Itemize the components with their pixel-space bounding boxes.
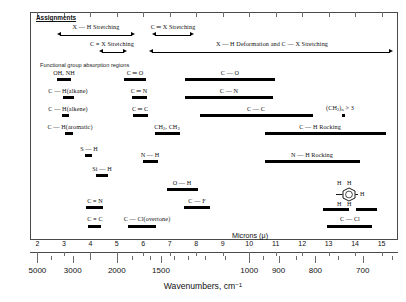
arrow-head-left-cxd — [152, 32, 156, 36]
micron-tick-label-3: 3 — [62, 240, 66, 247]
top-tick-10 — [249, 12, 250, 17]
micron-tick-label-6: 6 — [141, 240, 145, 247]
band-label-ch2-ch3: CH2, CH3 — [154, 124, 180, 131]
band-bar-ch2-ch3 — [155, 132, 180, 135]
band-bar-oh-nh — [57, 78, 71, 81]
micron-tick-7 — [170, 252, 171, 256]
band-label-ch-aromatic: C — H(aromatic) — [47, 124, 92, 130]
wavenumber-tick-1000 — [249, 256, 250, 263]
wavenumber-tick-900 — [279, 256, 280, 263]
wavenumber-caption-exponent: −1 — [235, 281, 242, 288]
arrow-head-right-cxd — [190, 32, 194, 36]
wavenumber-minor-tick-1800 — [132, 256, 133, 260]
wavenumber-minor-tick-2500 — [90, 256, 91, 260]
band-bar-nh-rocking — [265, 160, 360, 163]
wavenumber-tick-label-800: 800 — [309, 266, 322, 275]
ch2ch3-b-sub: 3 — [177, 126, 179, 131]
band-label-ch-alkene: C — H(alkene) — [48, 106, 87, 112]
micron-tick-3 — [64, 252, 65, 256]
micron-tick-14 — [355, 252, 356, 256]
band-bar-sh — [85, 154, 92, 157]
band-bar-ccl — [327, 225, 372, 228]
micron-tick-label-11: 11 — [272, 240, 279, 247]
wavenumber-tick-label-2000: 2000 — [108, 266, 126, 275]
band-bar-cc-single — [200, 114, 313, 117]
top-tick-14 — [355, 12, 356, 17]
wavenumber-caption-text: Wavenumbers, cm — [164, 281, 235, 291]
functional-group-note: Functional group absorption regions — [40, 62, 129, 68]
ir-correlation-chart: Assignments Functional group absorption … — [0, 0, 406, 302]
ch2ch3-b: , CH — [165, 123, 177, 130]
wavenumber-tick-700 — [363, 256, 364, 263]
band-bar-ch-rocking — [265, 132, 386, 135]
wavenumber-minor-tick-1100 — [225, 256, 226, 260]
band-bar-si-h — [96, 174, 108, 177]
top-tick-12 — [302, 12, 303, 17]
band-label-cn-double: C ═ N — [131, 88, 148, 94]
ring-hydrogen-bottom-left: H — [337, 201, 342, 207]
ring-hydrogen-top-left: H — [337, 180, 342, 186]
band-bar-cn-triple — [86, 206, 103, 209]
band-label-co-double: C ═ O — [127, 70, 144, 76]
band-label-ch-alkane: C — H(alkane) — [48, 88, 87, 94]
ring-hydrogen-right: H — [360, 191, 365, 197]
band-bar-aromatic-sub-right — [356, 208, 377, 211]
wavenumber-tick-label-3000: 3000 — [64, 266, 82, 275]
micron-tick-15 — [382, 252, 383, 256]
wavenumber-minor-tick-750 — [338, 256, 339, 260]
top-tick-11 — [276, 12, 277, 17]
band-label-ccl-overtone: C — Cl(overtone) — [124, 216, 171, 222]
micron-axis-line — [30, 252, 398, 253]
wavenumber-minor-tick-850 — [296, 256, 297, 260]
wavenumber-tick-label-1000: 1000 — [240, 266, 258, 275]
wavenumber-minor-tick-1200 — [205, 256, 206, 260]
micron-tick-9 — [223, 252, 224, 256]
ring-hydrogen-top-right: H — [347, 180, 352, 186]
top-tick-4 — [90, 12, 91, 17]
band-label-oh-nh: OH, NH — [53, 70, 75, 76]
band-bar-cn-single — [185, 96, 273, 99]
band-label-cn-single: C — N — [220, 88, 238, 94]
band-bar-ch-alkane — [63, 96, 74, 99]
ch2n-pre: (CH — [326, 104, 337, 111]
band-bar-ch2n — [342, 114, 345, 117]
arrow-head-left-xh — [57, 32, 61, 36]
wavenumber-tick-1500 — [161, 256, 162, 263]
top-tick-7 — [170, 12, 171, 17]
band-bar-aromatic-sub-left — [323, 208, 349, 211]
micron-tick-6 — [143, 252, 144, 256]
arrow-head-right-cxt — [123, 49, 127, 53]
wavenumber-minor-tick-1300 — [188, 256, 189, 260]
top-tick-15 — [382, 12, 383, 17]
span-label-deformation: X — H Deformation and C — X Stretching — [216, 41, 328, 47]
micron-tick-label-12: 12 — [298, 240, 306, 247]
arrow-head-left-def — [149, 49, 153, 53]
band-bar-ch-aromatic — [65, 132, 73, 135]
band-label-nh-rocking: N — H Rocking — [291, 152, 333, 158]
span-arrow-deformation — [152, 52, 390, 53]
band-label-ch-rocking: C — H Rocking — [299, 124, 341, 130]
band-label-co-single: C — O — [221, 70, 239, 76]
wavenumber-minor-tick-1600 — [150, 256, 151, 260]
micron-tick-label-4: 4 — [88, 240, 92, 247]
micron-tick-label-14: 14 — [351, 240, 359, 247]
wavenumber-tick-2000 — [117, 256, 118, 263]
top-tick-6 — [143, 12, 144, 17]
band-bar-cc-triple — [88, 225, 101, 228]
wavenumber-tick-label-700: 700 — [356, 266, 369, 275]
micron-tick-label-13: 13 — [325, 240, 333, 247]
wavenumber-tick-label-1500: 1500 — [152, 266, 170, 275]
band-label-cc-single: C — C — [247, 106, 265, 112]
span-arrow-cx-triple — [102, 52, 124, 53]
micron-axis-caption: Microns (μ) — [232, 231, 268, 240]
wavenumber-tick-5000 — [37, 256, 38, 263]
band-label-cc-triple: C ≡ C — [87, 216, 102, 222]
micron-tick-label-9: 9 — [221, 240, 225, 247]
micron-tick-12 — [302, 252, 303, 256]
arrow-head-left-cxt — [99, 49, 103, 53]
band-label-nh: N — H — [141, 152, 160, 158]
wavenumber-tick-3000 — [73, 256, 74, 263]
span-label-cx-triple: C ≡ X Stretching — [90, 41, 134, 47]
top-tick-13 — [329, 12, 330, 17]
micron-tick-label-2: 2 — [35, 240, 39, 247]
